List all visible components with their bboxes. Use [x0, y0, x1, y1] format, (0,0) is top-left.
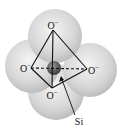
oxygen-sphere-top — [28, 9, 82, 63]
label-silicon: Si — [75, 116, 84, 127]
silicate-tetrahedron-diagram: O− O− O− O− Si — [0, 0, 122, 134]
